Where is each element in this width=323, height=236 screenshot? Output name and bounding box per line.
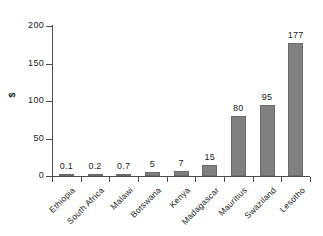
x-tick-mark (281, 177, 282, 182)
x-tick-mark (195, 177, 196, 182)
bar-value-label: 95 (247, 92, 287, 102)
x-axis-line (52, 176, 310, 177)
bar (231, 116, 246, 176)
x-tick-mark (109, 177, 110, 182)
x-tick-mark (310, 177, 311, 182)
bar-value-label: 15 (190, 152, 230, 162)
bar-value-label: 177 (276, 30, 316, 40)
bar (260, 105, 275, 176)
y-tick-label: 100 (2, 95, 44, 105)
bar (59, 174, 74, 176)
x-tick-mark (138, 177, 139, 182)
bar (174, 171, 189, 176)
y-tick-mark (46, 26, 52, 27)
x-tick-mark (253, 177, 254, 182)
y-tick-mark (46, 139, 52, 140)
x-tick-mark (81, 177, 82, 182)
y-tick-label: 0 (2, 170, 44, 180)
y-tick-label: 50 (2, 133, 44, 143)
y-tick-label: 150 (2, 58, 44, 68)
x-tick-mark (224, 177, 225, 182)
bar (145, 172, 160, 176)
x-tick-mark (167, 177, 168, 182)
bar (116, 174, 131, 176)
y-tick-label: 200 (2, 20, 44, 30)
bar-value-label: 80 (218, 103, 258, 113)
x-tick-mark (52, 177, 53, 182)
y-axis-line (52, 25, 53, 177)
bar (202, 165, 217, 176)
bar (88, 174, 103, 176)
bar (288, 43, 303, 176)
y-tick-mark (46, 101, 52, 102)
y-tick-mark (46, 64, 52, 65)
bar-chart: $ 050100150200 0.10.20.757158095177 Ethi… (0, 0, 323, 236)
